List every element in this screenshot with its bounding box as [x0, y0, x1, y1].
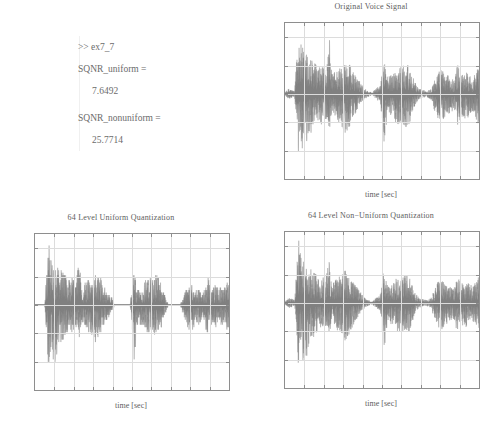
x-tick-mark: [151, 234, 152, 237]
gridline-horizontal: [285, 37, 479, 38]
x-tick-mark: [210, 234, 211, 237]
y-tick-mark: [35, 305, 38, 306]
plot-area-uniform: 123456789100.20.10−0.1−0.2−0.3: [34, 233, 230, 391]
x-tick-mark: [382, 176, 383, 179]
gridline-vertical: [54, 234, 55, 390]
gridline-horizontal: [285, 94, 479, 95]
x-tick-mark: [421, 385, 422, 388]
chart-uniform-quantization: 64 Level Uniform Quantization 1234567891…: [6, 213, 236, 413]
y-tick-mark: [285, 388, 288, 389]
x-tick-mark: [382, 385, 383, 388]
y-tick-mark: [285, 179, 288, 180]
gridline-vertical: [479, 232, 480, 388]
y-tick-mark: [35, 390, 38, 391]
x-tick-mark: [190, 387, 191, 390]
gridline-vertical: [113, 234, 114, 390]
console-var2-value: 25.7714: [78, 135, 238, 146]
x-tick-mark: [440, 23, 441, 26]
gridline-vertical: [74, 234, 75, 390]
y-tick-mark: [476, 151, 479, 152]
gridline-horizontal: [35, 248, 229, 249]
chart-title-uniform: 64 Level Uniform Quantization: [6, 213, 236, 222]
y-tick-mark: [285, 122, 288, 123]
y-tick-mark: [35, 248, 38, 249]
gridline-vertical: [440, 23, 441, 179]
x-tick-mark: [304, 23, 305, 26]
y-tick-mark: [285, 246, 288, 247]
x-tick-mark: [304, 176, 305, 179]
x-tick-mark: [229, 387, 230, 390]
y-tick-mark: [476, 331, 479, 332]
y-tick-mark: [476, 360, 479, 361]
gridline-horizontal: [285, 122, 479, 123]
xlabel-nonuniform: time [sec]: [284, 399, 478, 408]
x-tick-mark: [460, 176, 461, 179]
x-tick-mark: [324, 23, 325, 26]
x-tick-mark: [54, 234, 55, 237]
x-tick-mark: [479, 23, 480, 26]
x-tick-mark: [304, 232, 305, 235]
gridline-horizontal: [35, 277, 229, 278]
gridline-vertical: [363, 232, 364, 388]
matlab-console-output: >> ex7_7 SQNR_uniform = 7.6492 SQNR_nonu…: [78, 42, 238, 157]
y-tick-mark: [476, 275, 479, 276]
gridline-vertical: [93, 234, 94, 390]
console-var1-name: SQNR_uniform =: [78, 64, 238, 75]
y-tick-mark: [35, 362, 38, 363]
y-tick-mark: [476, 66, 479, 67]
y-tick-mark: [35, 277, 38, 278]
gridline-horizontal: [285, 246, 479, 247]
gridline-vertical: [132, 234, 133, 390]
plot-area-nonuniform: 123456789100.20.10−0.1−0.2−0.3: [284, 231, 480, 389]
x-tick-mark: [363, 23, 364, 26]
x-tick-mark: [113, 234, 114, 237]
x-tick-mark: [229, 234, 230, 237]
x-tick-mark: [382, 23, 383, 26]
chart-nonuniform-quantization: 64 Level Non−Uniform Quantization 123456…: [256, 211, 486, 413]
gridline-horizontal: [285, 331, 479, 332]
y-tick-mark: [226, 248, 229, 249]
xlabel-uniform: time [sec]: [34, 401, 228, 410]
y-tick-mark: [285, 37, 288, 38]
gridline-vertical: [210, 234, 211, 390]
gridline-vertical: [479, 23, 480, 179]
gridline-horizontal: [285, 303, 479, 304]
y-tick-mark: [476, 388, 479, 389]
x-tick-mark: [343, 232, 344, 235]
gridline-vertical: [460, 232, 461, 388]
x-tick-mark: [171, 387, 172, 390]
x-tick-mark: [440, 176, 441, 179]
x-tick-mark: [460, 23, 461, 26]
gridline-vertical: [190, 234, 191, 390]
y-tick-mark: [226, 362, 229, 363]
gridline-vertical: [440, 232, 441, 388]
y-tick-mark: [285, 94, 288, 95]
x-tick-mark: [460, 232, 461, 235]
gridline-vertical: [304, 232, 305, 388]
x-tick-mark: [113, 387, 114, 390]
x-tick-mark: [421, 232, 422, 235]
gridline-vertical: [421, 23, 422, 179]
y-tick-mark: [285, 303, 288, 304]
x-tick-mark: [74, 234, 75, 237]
x-tick-mark: [382, 232, 383, 235]
x-tick-mark: [421, 23, 422, 26]
y-tick-mark: [285, 151, 288, 152]
console-var1-value: 7.6492: [78, 86, 238, 97]
y-tick-mark: [226, 390, 229, 391]
x-tick-mark: [401, 176, 402, 179]
gridline-vertical: [324, 23, 325, 179]
x-tick-mark: [440, 385, 441, 388]
x-tick-mark: [363, 385, 364, 388]
gridline-vertical: [229, 234, 230, 390]
plot-area-original: 123456789100.20.10−0.1−0.2−0.3: [284, 22, 480, 180]
x-tick-mark: [343, 176, 344, 179]
y-tick-mark: [476, 303, 479, 304]
gridline-horizontal: [35, 362, 229, 363]
chart-title-original: Original Voice Signal: [256, 2, 486, 11]
x-tick-mark: [401, 232, 402, 235]
console-prompt-line: >> ex7_7: [78, 42, 238, 53]
gridline-vertical: [343, 23, 344, 179]
chart-title-nonuniform: 64 Level Non−Uniform Quantization: [256, 211, 486, 220]
x-tick-mark: [440, 232, 441, 235]
